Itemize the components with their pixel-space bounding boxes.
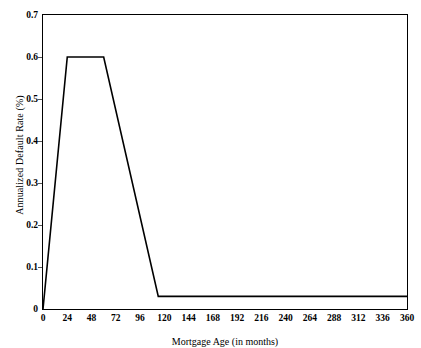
x-tick-label: 360 xyxy=(387,313,421,324)
y-tick-label: 0.4 xyxy=(4,136,38,146)
plot-area xyxy=(42,14,408,310)
x-axis-title: Mortgage Age (in months) xyxy=(42,336,408,347)
data-line-series xyxy=(43,15,407,309)
default-rate-line-chart: Annualized Default Rate (%) 00.10.20.30.… xyxy=(0,0,421,348)
y-tick-label: 0.6 xyxy=(4,52,38,62)
y-tick-label: 0.1 xyxy=(4,262,38,272)
y-tick-label: 0.2 xyxy=(4,220,38,230)
y-axis-tick-labels: 00.10.20.30.40.50.60.7 xyxy=(0,14,38,310)
y-tick-label: 0.7 xyxy=(4,10,38,20)
y-tick-label: 0.3 xyxy=(4,178,38,188)
x-axis-tick-labels: 0244872961201441681922162402642883123363… xyxy=(42,313,408,327)
y-tick-label: 0.5 xyxy=(4,94,38,104)
